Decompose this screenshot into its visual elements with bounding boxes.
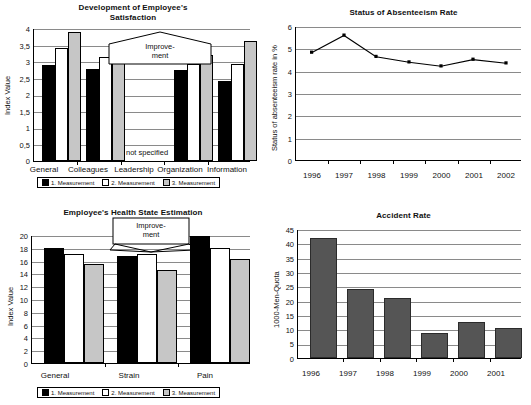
legend-label: 3. Measurement: [172, 180, 215, 186]
y-tick: 4: [14, 335, 28, 342]
gridline: [34, 29, 250, 30]
figure-sheet: Development of Employee's Satisfaction I…: [0, 0, 531, 405]
y-tick: 2: [14, 348, 28, 355]
gridline: [298, 230, 521, 231]
chart-title-line1: Status of Absenteeism Rate: [286, 8, 521, 18]
y-tick: 1,5: [12, 109, 30, 116]
x-tick-label-1999: 1999: [403, 370, 441, 378]
x-tick-label-2001: 2001: [458, 172, 490, 180]
y-tick: 8: [14, 310, 28, 317]
x-tick-label-1998: 1998: [361, 172, 393, 180]
annotation-improvement-text: Improve- ment: [108, 42, 212, 60]
bar-information-m2: [231, 64, 244, 161]
x-tick-mark: [490, 161, 491, 164]
x-tick-label-1997: 1997: [329, 370, 367, 378]
x-tick-mark: [343, 359, 344, 362]
y-tick: 3,5: [12, 43, 30, 50]
chart-absenteeism-rate: Status of Absenteeism Rate Status of abs…: [266, 0, 531, 200]
bar-organization-m2: [187, 64, 200, 161]
bar-colleagues-m1: [86, 69, 99, 161]
x-tick-label-colleagues: Colleagues: [64, 166, 112, 174]
bar-information-m1: [218, 81, 231, 161]
data-point: [342, 34, 345, 37]
chart-health-state-estimation: Employee's Health State Estimation Index…: [0, 205, 266, 405]
bar-strain-m1: [117, 256, 137, 363]
y-tick: 6: [280, 24, 292, 31]
x-tick-mark: [416, 359, 417, 362]
y-tick: 14: [14, 271, 28, 278]
y-tick: 25: [280, 284, 294, 291]
legend-label: 1. Measurement: [51, 180, 94, 186]
x-tick-mark: [380, 359, 381, 362]
bar-1998: [384, 298, 411, 358]
x-tick-label-pain: Pain: [172, 372, 238, 380]
legend-label: 3. Measurement: [172, 390, 215, 396]
y-tick: 10: [14, 297, 28, 304]
bar-pain-m3: [230, 259, 250, 363]
legend-item-m1: 1. Measurement: [42, 179, 94, 186]
legend-label: 1. Measurement: [51, 390, 94, 396]
x-tick-label-1996: 1996: [296, 172, 328, 180]
legend-item-m3: 3. Measurement: [163, 389, 215, 396]
legend-swatch-icon: [42, 389, 49, 396]
bar-2000: [458, 322, 485, 358]
bar-strain-m3: [157, 270, 177, 363]
bar-1999: [421, 333, 448, 358]
data-point: [310, 51, 313, 54]
y-tick: 6: [14, 323, 28, 330]
bar-1997: [347, 289, 374, 358]
y-tick: 2: [12, 92, 30, 99]
bar-general-m2: [64, 254, 84, 363]
annotation-improvement-callout: Improve- ment: [108, 31, 212, 65]
y-tick: 10: [280, 327, 294, 334]
y-tick: 0: [280, 356, 294, 363]
x-tick-label-strain: Strain: [96, 372, 162, 380]
x-tick-label-1998: 1998: [366, 370, 404, 378]
bar-information-m3: [244, 41, 257, 161]
y-tick: 18: [14, 246, 28, 253]
bar-general-m3: [84, 264, 104, 363]
chart-title-line1: Accident Rate: [286, 211, 521, 221]
y-tick: 20: [280, 299, 294, 306]
bar-pain-m2: [210, 248, 230, 363]
y-axis-label: Status of absenteeism rate in %: [270, 28, 280, 168]
bar-colleagues-m2: [99, 57, 112, 161]
x-tick-mark: [453, 359, 454, 362]
y-tick: 2,5: [12, 76, 30, 83]
x-tick-label-2001: 2001: [477, 370, 515, 378]
x-tick-mark: [328, 161, 329, 164]
legend-swatch-icon: [163, 389, 170, 396]
x-tick-label-1996: 1996: [292, 370, 330, 378]
y-tick: 0: [12, 158, 30, 165]
x-tick-mark: [360, 161, 361, 164]
y-tick: 0: [280, 158, 292, 165]
x-tick-label-2002: 2002: [490, 172, 522, 180]
data-point: [439, 64, 442, 67]
plot-area: [295, 27, 521, 161]
chart-legend: 1. Measurement 2. Measurement 3. Measure…: [37, 177, 220, 188]
x-tick-label-2000: 2000: [426, 172, 458, 180]
y-tick: 0,5: [12, 142, 30, 149]
annotation-improvement-text: Improve- ment: [112, 221, 190, 239]
callout-pointer-icon: [100, 243, 204, 257]
y-tick: 4: [12, 26, 30, 33]
annotation-line2: ment: [112, 230, 190, 239]
bar-strain-m2: [137, 254, 157, 363]
plot-area: [297, 230, 521, 359]
y-tick: 0: [14, 361, 28, 368]
legend-swatch-icon: [163, 179, 170, 186]
y-tick: 3: [280, 91, 292, 98]
chart-title: Accident Rate: [286, 211, 521, 221]
x-tick-label-general: General: [22, 166, 66, 174]
x-tick-mark: [425, 161, 426, 164]
bar-1996: [310, 238, 337, 358]
y-tick: 45: [280, 227, 294, 234]
chart-accident-rate: Accident Rate 1000-Men-Quota 45 40 35 30…: [266, 205, 531, 405]
chart-employee-satisfaction: Development of Employee's Satisfaction I…: [0, 0, 266, 200]
annotation-line1: Improve-: [108, 42, 212, 51]
x-tick-mark: [458, 161, 459, 164]
x-tick-mark: [490, 359, 491, 362]
y-tick: 1: [280, 136, 292, 143]
y-tick: 30: [280, 270, 294, 277]
bar-general-m3: [68, 32, 81, 161]
